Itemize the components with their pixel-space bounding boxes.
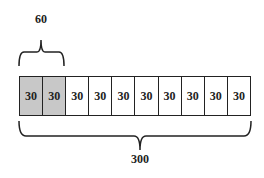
cell: 30	[182, 77, 205, 115]
cell: 30	[135, 77, 158, 115]
cell: 30	[43, 77, 66, 115]
cell: 30	[89, 77, 112, 115]
cell: 30	[228, 77, 250, 115]
cell-row: 30 30 30 30 30 30 30 30 30 30	[19, 76, 251, 116]
bottom-brace	[19, 121, 251, 150]
cell: 30	[20, 77, 43, 115]
cell: 30	[112, 77, 135, 115]
cell: 30	[205, 77, 228, 115]
cell: 30	[66, 77, 89, 115]
top-brace	[19, 40, 64, 66]
cell: 30	[159, 77, 182, 115]
bottom-brace-label: 300	[131, 152, 149, 167]
